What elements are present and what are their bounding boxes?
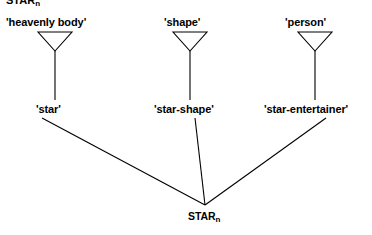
edge-star-entertainer-to-root <box>205 118 326 205</box>
sense-label-shape: 'shape' <box>164 16 200 28</box>
diagram-edges <box>0 0 372 235</box>
form-label-star-entertainer: 'star-entertainer' <box>264 103 348 115</box>
word-sense-tree-diagram: STARn 'heavenly body' 'shape' 'person' '… <box>0 0 372 235</box>
edge-star-to-root <box>42 118 205 205</box>
triangle-icon-shape <box>173 32 207 51</box>
root-node-subscript: n <box>215 215 220 224</box>
edge-star-shape-to-root <box>195 118 205 205</box>
root-node-label: STARn <box>188 210 220 226</box>
triangle-icon-person <box>298 32 332 51</box>
root-node-text: STAR <box>188 210 215 222</box>
sense-label-person: 'person' <box>285 16 326 28</box>
triangle-icon-heavenly-body <box>38 32 72 51</box>
form-label-star: 'star' <box>36 103 61 115</box>
form-label-star-shape: 'star-shape' <box>154 103 214 115</box>
sense-label-heavenly-body: 'heavenly body' <box>6 16 86 28</box>
